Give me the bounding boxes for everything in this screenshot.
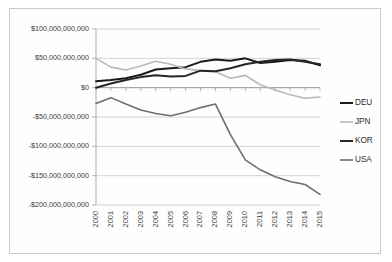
gridlines — [96, 29, 320, 205]
x-tick-label: 2012 — [270, 211, 279, 227]
legend: DEUJPNKORUSA — [340, 98, 373, 164]
legend-label-usa: USA — [355, 155, 372, 164]
legend-label-jpn: JPN — [355, 117, 371, 126]
y-tick-label: -$100,000,000,000 — [29, 141, 89, 150]
data-series-group — [96, 58, 320, 194]
line-chart: $100,000,000,000$50,000,000,000$0-$50,00… — [0, 0, 392, 262]
y-tick-label: $100,000,000,000 — [31, 24, 89, 33]
legend-label-kor: KOR — [355, 136, 373, 145]
legend-label-deu: DEU — [355, 98, 372, 107]
x-tick-label: 2009 — [225, 211, 234, 227]
x-tick-label: 2003 — [136, 211, 145, 227]
x-tick-label: 2007 — [195, 211, 204, 227]
y-tick-label: -$150,000,000,000 — [29, 171, 89, 180]
x-tick-label: 2006 — [181, 211, 190, 227]
y-tick-label: $50,000,000,000 — [35, 53, 89, 62]
x-tick-label: 2013 — [285, 211, 294, 227]
x-tick-label: 2000 — [91, 211, 100, 227]
series-line-kor — [96, 60, 320, 88]
x-tick-label: 2001 — [106, 211, 115, 227]
y-tick-label: $0 — [81, 83, 89, 92]
x-axis-tick-labels: 2000200120022003200420052006200720082009… — [91, 211, 324, 227]
x-tick-label: 2014 — [300, 211, 309, 227]
x-tick-label: 2015 — [315, 211, 324, 227]
y-axis-tick-labels: $100,000,000,000$50,000,000,000$0-$50,00… — [29, 24, 89, 209]
x-tick-label: 2005 — [166, 211, 175, 227]
x-tick-label: 2010 — [240, 211, 249, 227]
y-tick-label: -$200,000,000,000 — [29, 200, 89, 209]
x-tick-label: 2002 — [121, 211, 130, 227]
x-tickmarks — [96, 88, 320, 92]
x-tick-label: 2008 — [210, 211, 219, 227]
x-tick-label: 2004 — [151, 211, 160, 227]
y-tick-label: -$50,000,000,000 — [33, 112, 89, 121]
x-tick-label: 2011 — [255, 211, 264, 227]
